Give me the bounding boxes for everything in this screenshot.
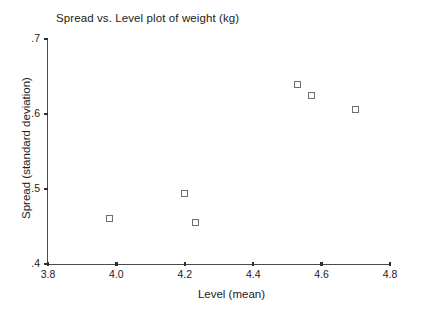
data-point-marker [181,190,188,197]
y-axis-title: Spread (standard deviation) [20,28,32,268]
x-tick-label: 4.0 [96,268,136,280]
data-point-marker [294,81,301,88]
x-tick-mark [389,262,392,266]
x-tick-label: 3.8 [28,268,68,280]
x-tick-label: 4.6 [302,268,342,280]
x-axis-title: Level (mean) [0,288,421,300]
chart-title: Spread vs. Level plot of weight (kg) [56,12,239,24]
y-tick-mark [44,38,48,41]
x-axis-title-text: Level (mean) [198,288,265,300]
x-tick-label: 4.2 [165,268,205,280]
x-tick-mark [252,262,255,266]
plot-area [48,39,390,264]
x-tick-mark [47,262,50,266]
y-axis-line [47,38,48,265]
x-tick-label: 4.8 [370,268,410,280]
data-point-marker [192,219,199,226]
x-axis-line [47,264,391,265]
spread-vs-level-scatter-chart: Spread vs. Level plot of weight (kg) .4.… [0,0,421,314]
y-tick-mark [44,188,48,191]
data-point-marker [106,215,113,222]
x-tick-mark [115,262,118,266]
x-tick-mark [184,262,187,266]
data-point-marker [308,92,315,99]
x-tick-label: 4.4 [233,268,273,280]
x-tick-mark [320,262,323,266]
data-point-marker [352,106,359,113]
y-tick-mark [44,113,48,116]
